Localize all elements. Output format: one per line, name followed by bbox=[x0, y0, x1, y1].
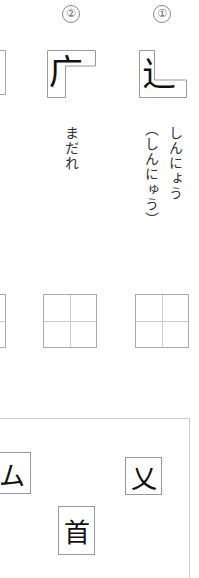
question-number-1: ① bbox=[153, 5, 171, 23]
tile-char: 首 bbox=[64, 512, 90, 549]
character-tile-mu[interactable]: ム bbox=[0, 452, 31, 494]
character-tile-kubi[interactable]: 首 bbox=[58, 506, 95, 555]
question-number-2: ② bbox=[62, 5, 80, 23]
reading-madare: まだれ bbox=[64, 126, 78, 171]
radical-box-madare: 广 bbox=[47, 50, 97, 98]
tile-char: ム bbox=[0, 455, 25, 492]
radical-box-shinnyou: 辶 bbox=[139, 50, 187, 98]
tile-char: 乂 bbox=[131, 458, 157, 495]
reading-shinnyou-alt: （しんにゅう） bbox=[144, 122, 158, 227]
radical-char-shinnyou: 辶 bbox=[142, 52, 176, 96]
writing-grid-madare[interactable] bbox=[43, 294, 97, 348]
radical-char-madare: 广 bbox=[49, 50, 83, 94]
character-tile-gai[interactable]: 乂 bbox=[125, 457, 162, 495]
reading-shinnyou: しんにょう bbox=[168, 126, 182, 201]
partial-radical-box bbox=[0, 50, 6, 95]
writing-grid-partial[interactable] bbox=[0, 294, 6, 348]
tile-pool-frame bbox=[0, 418, 190, 578]
writing-grid-shinnyou[interactable] bbox=[135, 294, 189, 348]
